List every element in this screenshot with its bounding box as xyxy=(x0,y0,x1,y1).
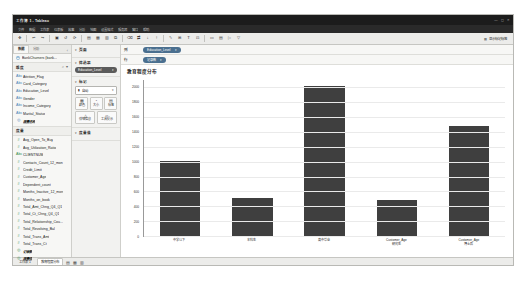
show-cards-icon[interactable]: ▤ xyxy=(217,35,224,42)
back-arrow-icon[interactable]: ↩ xyxy=(30,35,37,42)
undo-refresh-icon[interactable]: ↺ xyxy=(62,35,69,42)
field-item[interactable]: #Months_on_book xyxy=(13,196,71,203)
save-icon[interactable]: ▣ xyxy=(53,35,60,42)
filters-header[interactable]: ▾ 筛选器 xyxy=(75,60,117,65)
forward-arrow-icon[interactable]: ↪ xyxy=(39,35,46,42)
sheet-tab-1[interactable]: 工作表 1 xyxy=(16,259,34,266)
field-item[interactable]: AbcIncome_Category xyxy=(13,103,71,110)
menu-item-4[interactable]: 故事 xyxy=(68,27,74,32)
collapse-pane-icon[interactable]: ‹ xyxy=(67,49,71,53)
maximize-icon[interactable]: ▢ xyxy=(501,18,504,22)
columns-shelf-well[interactable]: Education_Level ▾ xyxy=(140,47,513,53)
field-item[interactable]: ◎记录数 xyxy=(13,248,71,255)
rows-shelf[interactable]: 行 记录数 ▾ xyxy=(121,55,513,65)
field-item[interactable]: AbcMarital_Status xyxy=(13,110,71,117)
measure-values-header[interactable]: ▾ 度量值 xyxy=(75,130,117,135)
marks-tooltip-button[interactable]: ▱ 工具提示 xyxy=(97,111,117,124)
fix-axes-icon[interactable]: ⊡ xyxy=(194,35,201,42)
mark-type-label: 自动 xyxy=(82,88,88,93)
new-dashboard-icon[interactable]: ▦ xyxy=(94,35,101,42)
new-story-icon[interactable]: ▥ xyxy=(80,260,84,265)
y-axis-tick-label: 1800 xyxy=(132,100,139,104)
show-me-icon[interactable]: ▽ xyxy=(235,35,242,42)
filter-pill[interactable]: Education_Level ▾ xyxy=(75,67,117,73)
bar-chart: 0200400600800100012001400160018002000 中学… xyxy=(121,76,513,257)
field-item[interactable]: #Avg_Open_To_Buy xyxy=(13,137,71,144)
rows-shelf-well[interactable]: 记录数 ▾ xyxy=(140,57,513,63)
marks-header[interactable]: ▾ 标记 xyxy=(75,79,117,84)
chart-area[interactable]: 0200400600800100012001400160018002000 中学… xyxy=(121,76,513,257)
tab-data[interactable]: 数据 xyxy=(13,45,29,53)
fit-selector-icon[interactable]: ▭ xyxy=(208,35,215,42)
field-item[interactable]: AbcGender xyxy=(13,95,71,102)
presentation-mode-icon[interactable]: ▷ xyxy=(226,35,233,42)
marks-label-button[interactable]: ▤ 标签 xyxy=(104,97,117,110)
bar[interactable] xyxy=(160,161,200,236)
new-dashboard-icon[interactable]: ▦ xyxy=(73,260,77,265)
field-item[interactable]: #Dependent_count xyxy=(13,181,71,188)
bar[interactable] xyxy=(449,126,489,236)
tab-analytics[interactable]: 分析 xyxy=(29,46,43,53)
field-item[interactable]: #Total_Trans_Amt xyxy=(13,233,71,240)
swap-rows-columns-icon[interactable]: ⇄ xyxy=(135,35,142,42)
field-item[interactable]: #Contacts_Count_12_mon xyxy=(13,159,71,166)
sort-dropdown-icon[interactable]: ▾ xyxy=(66,65,68,69)
menu-item-8[interactable]: 服务器 xyxy=(118,27,127,32)
chevron-down-icon: ▾ xyxy=(175,48,177,52)
search-icon[interactable]: ⌕ xyxy=(62,65,64,69)
gridline xyxy=(144,177,505,178)
menu-item-6[interactable]: 地图 xyxy=(90,27,96,32)
menu-item-2[interactable]: 工作表 xyxy=(40,27,49,32)
menu-item-9[interactable]: 窗口 xyxy=(132,27,138,32)
clear-sheet-icon[interactable]: ⌫ xyxy=(126,35,133,42)
field-type-icon: # xyxy=(16,168,21,172)
rows-pill[interactable]: 记录数 ▾ xyxy=(143,57,166,63)
field-item[interactable]: AbcCard_Category xyxy=(13,80,71,87)
field-item[interactable]: #Total_Relationship_Cou... xyxy=(13,218,71,225)
menu-item-5[interactable]: 分析 xyxy=(79,27,85,32)
field-item[interactable]: #Avg_Utilization_Ratio xyxy=(13,144,71,151)
field-item[interactable]: ◎度量名称 xyxy=(13,117,71,124)
bar[interactable] xyxy=(232,198,272,236)
marks-detail-button[interactable]: △ 详细信息 xyxy=(75,111,95,124)
tableau-logo-icon[interactable]: ❖ xyxy=(16,35,23,42)
field-item[interactable]: #Months_Inactive_12_mon xyxy=(13,188,71,195)
sort-ascending-icon[interactable]: ↓ xyxy=(144,35,151,42)
group-members-icon[interactable]: ⊞ xyxy=(176,35,183,42)
field-item[interactable]: #Customer_Age xyxy=(13,174,71,181)
field-item[interactable]: AbcCLIENTNUM xyxy=(13,152,71,159)
sort-descending-icon[interactable]: ↑ xyxy=(153,35,160,42)
menu-item-7[interactable]: 设置格式 xyxy=(101,27,113,32)
field-item[interactable]: #Total_Ct_Chng_Q4_Q1 xyxy=(13,211,71,218)
columns-shelf[interactable]: 列 Education_Level ▾ xyxy=(121,45,513,55)
sheet-tab-2[interactable]: 教育程度分布 xyxy=(37,258,63,266)
marks-color-button[interactable]: ▦ 颜色 xyxy=(75,97,88,110)
columns-pill[interactable]: Education_Level ▾ xyxy=(143,47,181,53)
new-worksheet-icon[interactable]: ▤ xyxy=(66,260,70,265)
field-item[interactable]: #Total_Amt_Chng_Q4_Q1 xyxy=(13,203,71,210)
field-item[interactable]: #Credit_Limit xyxy=(13,166,71,173)
menu-item-10[interactable]: 帮助 xyxy=(143,27,149,32)
new-story-icon[interactable]: ▥ xyxy=(103,35,110,42)
field-item[interactable]: AbcEducation_Level xyxy=(13,88,71,95)
new-worksheet-icon[interactable]: ▤ xyxy=(85,35,92,42)
bar[interactable] xyxy=(377,200,417,236)
marks-size-button[interactable]: ◔ 大小 xyxy=(90,97,103,110)
refresh-data-icon[interactable]: ⟳ xyxy=(71,35,78,42)
highlight-icon[interactable]: ✎ xyxy=(167,35,174,42)
field-item[interactable]: #Total_Trans_Ct xyxy=(13,240,71,247)
show-labels-icon[interactable]: ▤ xyxy=(484,37,487,41)
pages-header[interactable]: ▾ 页面 xyxy=(75,47,117,52)
mark-type-select[interactable]: ▮ 自动 ▾ xyxy=(75,86,117,95)
field-item[interactable]: #Total_Revolving_Bal xyxy=(13,225,71,232)
menu-item-1[interactable]: 数据 xyxy=(29,27,35,32)
duplicate-sheet-icon[interactable]: ⧉ xyxy=(112,35,119,42)
minimize-icon[interactable]: — xyxy=(494,18,498,22)
menu-item-0[interactable]: 文件 xyxy=(18,27,24,32)
show-labels-icon[interactable]: T xyxy=(185,35,192,42)
field-item[interactable]: AbcAttrition_Flag xyxy=(13,73,71,80)
menu-item-3[interactable]: 仪表板 xyxy=(54,27,63,32)
close-icon[interactable]: ✕ xyxy=(507,18,510,22)
data-source-row[interactable]: BankChurners (bank... xyxy=(13,54,71,62)
database-icon xyxy=(16,56,20,60)
